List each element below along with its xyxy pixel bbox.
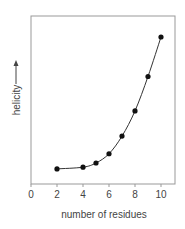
- data-point: [54, 166, 59, 171]
- x-axis-ticks: 0246810: [28, 184, 167, 200]
- data-point: [158, 34, 163, 39]
- data-point: [119, 134, 124, 139]
- data-point: [80, 165, 85, 170]
- data-point: [93, 160, 98, 165]
- fit-curve: [57, 37, 161, 169]
- y-arrow-icon: [14, 60, 19, 84]
- x-axis-label: number of residues: [61, 209, 147, 220]
- x-tick-label: 2: [54, 189, 60, 200]
- y-axis-label-group: helicity: [11, 85, 22, 116]
- helicity-chart: 0246810 number of residues helicity: [0, 0, 185, 229]
- data-markers: [54, 34, 163, 171]
- x-tick-label: 10: [155, 189, 167, 200]
- data-point: [106, 151, 111, 156]
- x-tick-label: 6: [106, 189, 112, 200]
- x-tick-label: 4: [80, 189, 86, 200]
- data-point: [132, 108, 137, 113]
- y-axis-label: helicity: [11, 85, 22, 116]
- x-tick-label: 0: [28, 189, 34, 200]
- x-tick-label: 8: [132, 189, 138, 200]
- data-point: [145, 74, 150, 79]
